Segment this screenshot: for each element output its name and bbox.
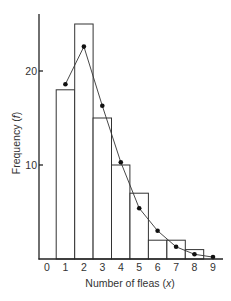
bar-x-5	[130, 193, 148, 259]
x-tick-label: 1	[62, 261, 68, 273]
x-tick-label: 5	[136, 261, 142, 273]
fitted-point-x-2	[82, 44, 87, 49]
histogram-chart: 1020 0123456789 Number of fleas (x) Freq…	[0, 0, 231, 301]
y-tick-label: 20	[25, 65, 37, 77]
x-tick-label: 3	[99, 261, 105, 273]
x-tick-label: 9	[210, 261, 216, 273]
x-tick-label: 0	[44, 261, 50, 273]
x-axis-title: Number of fleas (x)	[85, 277, 174, 289]
fitted-point-x-1	[63, 82, 68, 87]
chart-canvas: 1020 0123456789 Number of fleas (x) Freq…	[0, 0, 231, 301]
y-tick-label: 10	[25, 159, 37, 171]
y-axis-title: Frequency (f)	[10, 112, 22, 174]
observed-bars	[56, 24, 204, 259]
bar-x-1	[56, 90, 74, 259]
fitted-point-x-7	[174, 245, 179, 250]
y-ticks: 1020	[25, 65, 43, 171]
bar-x-3	[93, 118, 111, 259]
fitted-point-x-5	[137, 206, 142, 211]
x-tick-label: 4	[118, 261, 124, 273]
fitted-point-x-4	[119, 160, 124, 165]
x-tick-label: 6	[155, 261, 161, 273]
fitted-point-x-3	[100, 104, 105, 109]
x-tick-label: 8	[192, 261, 198, 273]
x-tick-label: 7	[173, 261, 179, 273]
fitted-point-x-6	[155, 229, 160, 234]
x-tick-label: 2	[81, 261, 87, 273]
bar-x-6	[148, 240, 166, 259]
fitted-point-x-8	[192, 252, 197, 257]
x-tick-labels: 0123456789	[44, 261, 216, 273]
